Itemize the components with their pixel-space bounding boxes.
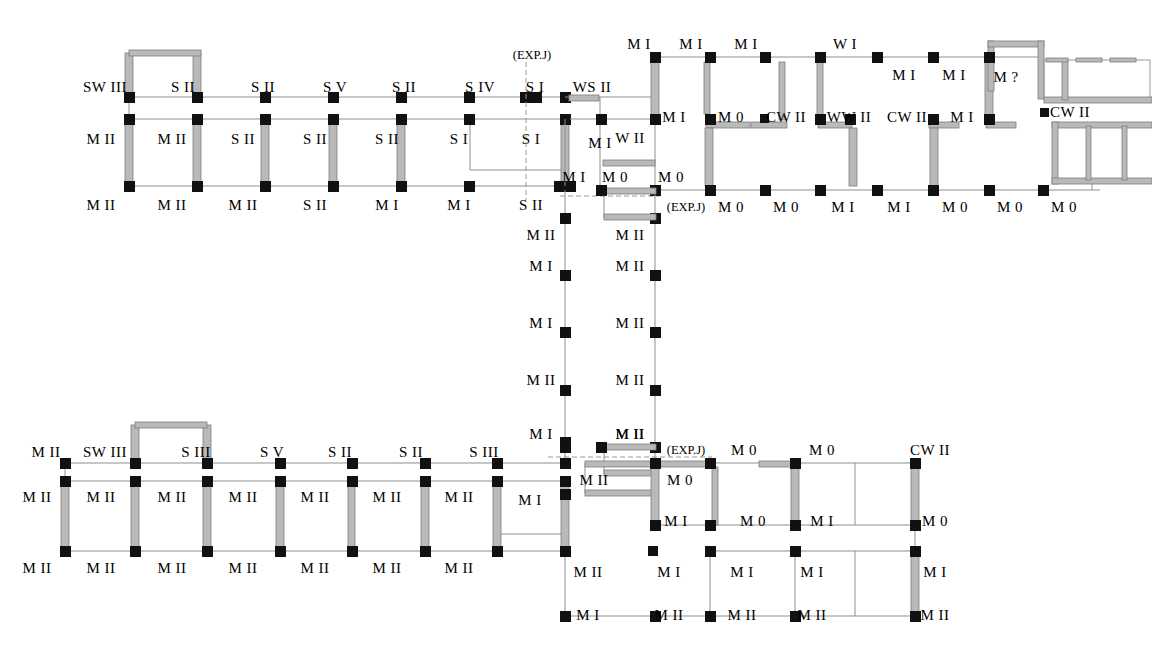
- expansion-joint-label: (EXP.J): [667, 201, 706, 214]
- member-damage-label: M II: [300, 490, 329, 505]
- member-damage-label: S I: [450, 132, 469, 147]
- member-damage-label: M I: [662, 110, 686, 125]
- member-damage-label: M I: [810, 514, 834, 529]
- member-damage-label: M II: [573, 565, 602, 580]
- member-damage-label: M II: [372, 561, 401, 576]
- member-damage-label: M II: [228, 198, 257, 213]
- member-damage-label: S IV: [465, 80, 495, 95]
- member-damage-label: S III: [181, 445, 211, 460]
- member-damage-label: M I: [950, 110, 974, 125]
- member-damage-label: CW II: [910, 443, 950, 458]
- member-damage-label: M II: [615, 228, 644, 243]
- member-damage-label: M II: [615, 259, 644, 274]
- member-damage-label: M II: [228, 561, 257, 576]
- member-damage-label: M II: [86, 198, 115, 213]
- member-damage-label: M I: [730, 565, 754, 580]
- member-damage-label: M II: [86, 561, 115, 576]
- member-damage-label: CW II: [887, 110, 927, 125]
- member-damage-label: M I: [447, 198, 471, 213]
- member-damage-label: M 0: [997, 200, 1023, 215]
- member-damage-label: CW II: [766, 110, 806, 125]
- member-damage-label: M 0: [942, 200, 968, 215]
- member-damage-label: M II: [22, 561, 51, 576]
- member-damage-label: M I: [892, 68, 916, 83]
- member-damage-label: CW II: [1050, 105, 1090, 120]
- member-damage-label: M II: [86, 490, 115, 505]
- member-damage-label: S II: [171, 80, 195, 95]
- member-damage-label: WW II: [827, 110, 871, 125]
- member-damage-label: S III: [469, 445, 499, 460]
- member-damage-label: M I: [518, 493, 542, 508]
- member-damage-label: S II: [328, 445, 352, 460]
- member-damage-label: M II: [157, 198, 186, 213]
- member-damage-label: M II: [526, 373, 555, 388]
- member-damage-label: M I: [576, 608, 600, 623]
- member-damage-label: S II: [399, 445, 423, 460]
- member-damage-label: M 0: [667, 473, 693, 488]
- member-damage-label: S II: [231, 132, 255, 147]
- member-damage-label: W II: [615, 131, 645, 146]
- member-damage-label: M II: [579, 473, 608, 488]
- north-wing-columns: [124, 92, 576, 192]
- member-damage-label: M II: [444, 490, 473, 505]
- floor-plan-canvas: .wall{fill:#b9b9b9;stroke:#7d7d7d;stroke…: [0, 0, 1152, 661]
- member-damage-label: M 0: [1051, 200, 1077, 215]
- member-damage-label: M I: [657, 565, 681, 580]
- member-damage-label: M II: [157, 561, 186, 576]
- member-damage-label: M I: [831, 200, 855, 215]
- member-damage-label: S I: [526, 80, 545, 95]
- member-damage-label: M I: [588, 136, 612, 151]
- southeast-wing-grid-lines: [565, 463, 915, 616]
- member-damage-label: SW III: [83, 80, 127, 95]
- member-damage-label: S II: [375, 132, 399, 147]
- expansion-joint-label: (EXP.J): [667, 444, 706, 457]
- member-damage-label: M I: [923, 565, 947, 580]
- member-damage-label: S II: [392, 80, 416, 95]
- member-damage-label: W I: [833, 37, 857, 52]
- southeast-wing-walls: [585, 461, 919, 616]
- member-damage-label: M 0: [731, 443, 757, 458]
- member-damage-label: M 0: [740, 514, 766, 529]
- member-damage-label: M II: [654, 608, 683, 623]
- member-damage-label: M II: [22, 490, 51, 505]
- member-damage-label: M II: [157, 132, 186, 147]
- north-wing-shear-walls: [125, 50, 569, 186]
- member-damage-label: M II: [444, 561, 473, 576]
- member-damage-label: SW III: [83, 445, 127, 460]
- member-damage-label: M II: [615, 427, 644, 442]
- member-damage-label: M II: [920, 608, 949, 623]
- member-damage-label: S V: [260, 445, 284, 460]
- member-damage-label: M II: [615, 316, 644, 331]
- member-damage-label: M II: [228, 490, 257, 505]
- member-damage-label: M 0: [922, 514, 948, 529]
- member-damage-label: M II: [300, 561, 329, 576]
- expansion-joint-label: (EXP.J): [513, 49, 552, 62]
- member-damage-label: M ?: [993, 70, 1018, 85]
- member-damage-label: S II: [519, 198, 543, 213]
- member-damage-label: S I: [522, 132, 541, 147]
- member-damage-label: S II: [303, 132, 327, 147]
- member-damage-label: M 0: [602, 170, 628, 185]
- member-damage-label: M II: [727, 608, 756, 623]
- member-damage-label: M I: [942, 68, 966, 83]
- member-damage-label: M I: [529, 316, 553, 331]
- member-damage-label: M I: [529, 427, 553, 442]
- member-damage-label: M II: [615, 373, 644, 388]
- member-damage-label: M I: [627, 37, 651, 52]
- member-damage-label: M 0: [773, 200, 799, 215]
- member-damage-label: S II: [303, 198, 327, 213]
- member-damage-label: S V: [323, 80, 347, 95]
- member-damage-label: M I: [887, 200, 911, 215]
- member-damage-label: M 0: [658, 170, 684, 185]
- member-damage-label: M II: [797, 608, 826, 623]
- member-damage-label: M I: [375, 198, 399, 213]
- member-damage-label: M I: [529, 259, 553, 274]
- member-damage-label: M I: [800, 565, 824, 580]
- member-damage-label: M 0: [809, 443, 835, 458]
- central-spine: [560, 185, 661, 476]
- southeast-wing-columns: [560, 458, 921, 622]
- member-damage-label: WS II: [573, 80, 612, 95]
- member-damage-label: M II: [157, 490, 186, 505]
- member-damage-label: M I: [664, 514, 688, 529]
- member-damage-label: M I: [562, 170, 586, 185]
